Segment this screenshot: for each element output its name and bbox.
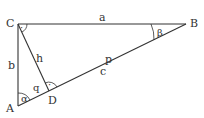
side-label-c: c: [100, 65, 106, 78]
altitude-h: [18, 24, 49, 91]
angle-label-alpha: α: [21, 93, 28, 104]
angle-label-beta: β: [157, 27, 163, 38]
vertex-label-a: A: [5, 102, 15, 115]
side-label-h: h: [36, 52, 43, 65]
side-label-a: a: [99, 11, 106, 24]
side-label-q: q: [33, 82, 40, 93]
right-angle-dot-d: ·: [48, 79, 51, 90]
side-label-b: b: [8, 59, 15, 72]
vertex-label-c: C: [6, 17, 14, 30]
triangle-diagram: · · C B A D a b h p c q α β: [0, 0, 204, 118]
right-angle-dot-c: ·: [20, 22, 23, 33]
vertex-label-d: D: [48, 94, 57, 107]
vertex-label-b: B: [190, 17, 198, 30]
angle-beta-arc: [151, 24, 154, 40]
